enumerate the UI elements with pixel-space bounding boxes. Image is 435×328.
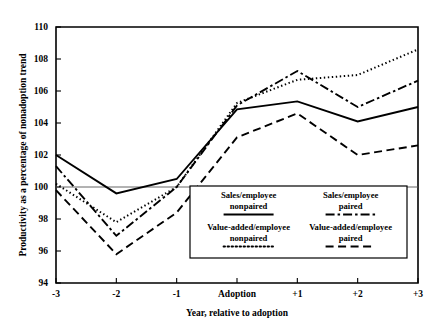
x-axis-tick-label: -1 [173,289,181,299]
productivity-line-chart: 949698100102104106108110 -3-2-1Adoption+… [0,0,435,328]
x-axis-tick-label: +1 [292,289,302,299]
y-tick-label-layer: 949698100102104106108110 [34,22,49,288]
legend-label-line1: Value-added/employee [309,222,392,232]
y-axis-tick-label: 96 [39,246,49,256]
x-axis-tick-label: +3 [413,289,423,299]
y-axis-title: Productivity as a percentage of nonadopt… [18,53,28,257]
x-axis-tick-label: -3 [52,289,60,299]
y-axis-tick-label: 106 [34,86,49,96]
y-axis-tick-label: 104 [34,118,49,128]
y-axis-tick-label: 102 [34,150,49,160]
legend-label-line1: Sales/employee [221,190,277,200]
series-line-0 [56,101,418,193]
y-axis-tick-label: 100 [34,182,49,192]
legend-label-line1: Sales/employee [323,190,379,200]
x-axis-tick-label: +2 [353,289,363,299]
legend-layer: Sales/employeenonpairedSales/employeepai… [190,186,407,258]
y-axis-tick-label: 108 [34,54,49,64]
y-axis-tick-label: 98 [39,214,49,224]
legend-label-line1: Value-added/employee [207,222,290,232]
chart-figure: 949698100102104106108110 -3-2-1Adoption+… [0,0,435,328]
legend-label-line2: nonpaired [230,201,268,211]
x-axis-title: Year, relative to adoption [186,308,289,318]
y-axis-tick-label: 110 [34,22,48,32]
x-axis-tick-label: -2 [112,289,120,299]
legend-label-line2: paired [339,233,363,243]
legend-label-line2: paired [339,201,363,211]
x-axis-tick-label: Adoption [218,289,257,299]
legend-label-line2: nonpaired [230,233,268,243]
y-axis-tick-label: 94 [39,278,49,288]
x-tick-label-layer: -3-2-1Adoption+1+2+3 [52,289,423,299]
